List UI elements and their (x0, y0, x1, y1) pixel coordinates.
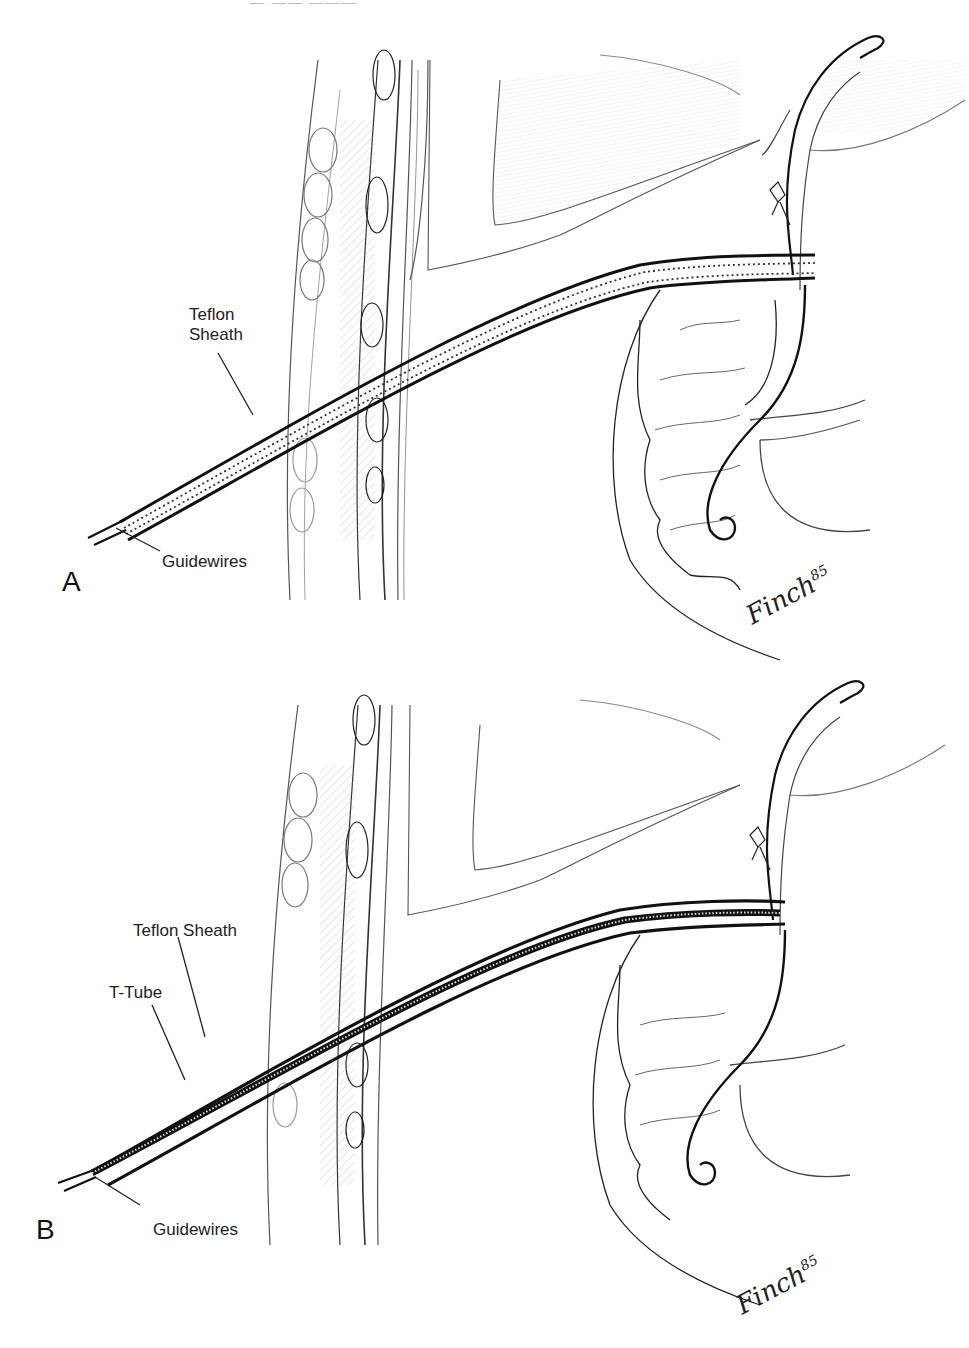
label-t-tube: T-Tube (109, 983, 162, 1003)
guidewire-loop (707, 285, 805, 539)
liver-shading (493, 60, 740, 225)
t-tube (92, 913, 780, 1173)
label-line-1: Teflon (189, 305, 243, 325)
liver-shading-right (812, 60, 965, 134)
label-teflon-sheath-a: Teflon Sheath (189, 305, 243, 345)
liver-outline-b (408, 700, 945, 915)
label-guidewires-b: Guidewires (153, 1220, 238, 1240)
panel-letter-a: A (62, 566, 81, 598)
leader-lines-a (116, 353, 253, 551)
medical-illustration: — —— ——— (0, 0, 969, 1348)
bile-duct-b (767, 681, 863, 935)
line-art (0, 0, 969, 1348)
guidewire-tails-b (58, 1170, 96, 1191)
guidewire-tails-a (88, 520, 126, 545)
label-teflon-sheath-b: Teflon Sheath (133, 921, 237, 941)
muscle-hatching-b (320, 765, 355, 1185)
teflon-sheath-b (100, 901, 785, 1185)
muscle-hatching (340, 120, 375, 540)
guidewire-loop-b (687, 930, 785, 1184)
label-line-2: Sheath (189, 325, 243, 345)
panel-letter-b: B (36, 1214, 55, 1246)
label-guidewires-a: Guidewires (162, 552, 247, 572)
panel-b-art (58, 681, 945, 1305)
